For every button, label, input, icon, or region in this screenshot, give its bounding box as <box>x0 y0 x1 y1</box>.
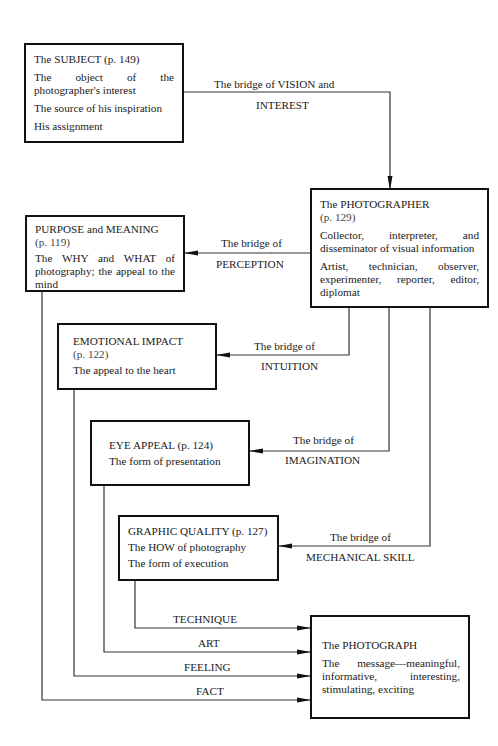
graphic-quality-title: GRAPHIC QUALITY <box>128 525 229 537</box>
photographer-line-1: Collector, interpreter, and disseminator… <box>320 229 479 255</box>
graphic-quality-line-1: The HOW of photography <box>128 541 269 554</box>
mechanical-label-1: The bridge of <box>330 531 391 543</box>
eye-appeal-line-1: The form of presentation <box>109 455 240 468</box>
photographer-page: (p. 129) <box>320 211 479 224</box>
emotional-title: EMOTIONAL IMPACT <box>73 335 207 348</box>
art-label: ART <box>198 637 220 649</box>
perception-label-1: The bridge of <box>221 237 282 249</box>
photographer-line-2: Artist, technician, observer, experiment… <box>320 260 479 299</box>
mechanical-label-2: MECHANICAL SKILL <box>306 551 415 563</box>
technique-label: TECHNIQUE <box>173 613 237 625</box>
emotional-box: EMOTIONAL IMPACT (p. 122) The appeal to … <box>57 323 217 390</box>
graphic-quality-line-2: The form of execution <box>128 557 269 570</box>
perception-label-2: PERCEPTION <box>216 258 284 270</box>
vision-label-2: INTEREST <box>256 99 309 111</box>
subject-line-1: The object of the photographer's interes… <box>34 71 174 97</box>
subject-line-3: His assignment <box>34 120 174 133</box>
intuition-label-2: INTUITION <box>261 360 318 372</box>
graphic-quality-page: (p. 127) <box>232 525 267 537</box>
photograph-title: The PHOTOGRAPH <box>322 639 460 652</box>
eye-appeal-page: (p. 124) <box>178 439 213 451</box>
imagination-label-2: IMAGINATION <box>285 454 360 466</box>
purpose-box: PURPOSE and MEANING (p. 119) The WHY and… <box>25 215 185 292</box>
eye-appeal-box: EYE APPEAL (p. 124) The form of presenta… <box>90 420 250 486</box>
fact-label: FACT <box>196 685 224 697</box>
intuition-label-1: The bridge of <box>254 340 315 352</box>
photograph-box: The PHOTOGRAPH The message—meaningful, i… <box>310 615 470 719</box>
graphic-quality-box: GRAPHIC QUALITY (p. 127) The HOW of phot… <box>118 515 279 581</box>
purpose-page: (p. 119) <box>35 236 175 249</box>
emotional-line-1: The appeal to the heart <box>73 364 207 377</box>
feeling-label: FEELING <box>184 661 231 673</box>
purpose-line-1: The WHY and WHAT of photography; the app… <box>35 252 175 291</box>
photographer-title: The PHOTOGRAPHER <box>320 198 479 211</box>
eye-appeal-title: EYE APPEAL <box>109 439 175 451</box>
purpose-title: PURPOSE and MEANING <box>35 223 175 236</box>
emotional-page: (p. 122) <box>73 348 207 361</box>
subject-box: The SUBJECT (p. 149) The object of the p… <box>24 43 184 143</box>
subject-page: (p. 149) <box>104 53 139 65</box>
imagination-label-1: The bridge of <box>293 434 354 446</box>
photograph-line-1: The message—meaningful, informative, int… <box>322 657 460 696</box>
subject-line-2: The source of his inspiration <box>34 102 174 115</box>
subject-title: The SUBJECT <box>34 53 101 65</box>
photographer-box: The PHOTOGRAPHER (p. 129) Collector, int… <box>310 188 489 308</box>
vision-label-1: The bridge of VISION and <box>214 78 334 90</box>
